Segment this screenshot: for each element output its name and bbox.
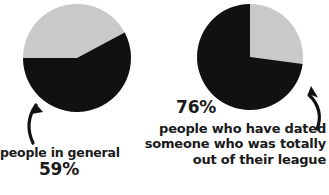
pie-chart-figure: people in general 59% 76% people who hav…: [0, 0, 329, 195]
left-chart-caption: people in general: [0, 146, 118, 159]
right-chart-caption-group: people who have dated someone who was to…: [140, 121, 326, 167]
left-arrow-icon: [29, 104, 43, 143]
left-chart-label-group: people in general 59%: [0, 146, 118, 179]
left-pie-chart: [23, 4, 131, 112]
left-chart-percent: 59%: [0, 161, 118, 179]
right-chart-caption-line-2: someone who was totally: [140, 136, 326, 151]
right-chart-caption-line-1: people who have dated: [140, 121, 326, 136]
right-chart-percent: 76%: [176, 99, 216, 117]
right-pie-chart: [197, 4, 303, 110]
right-chart-caption-line-3: out of their league: [140, 152, 326, 167]
